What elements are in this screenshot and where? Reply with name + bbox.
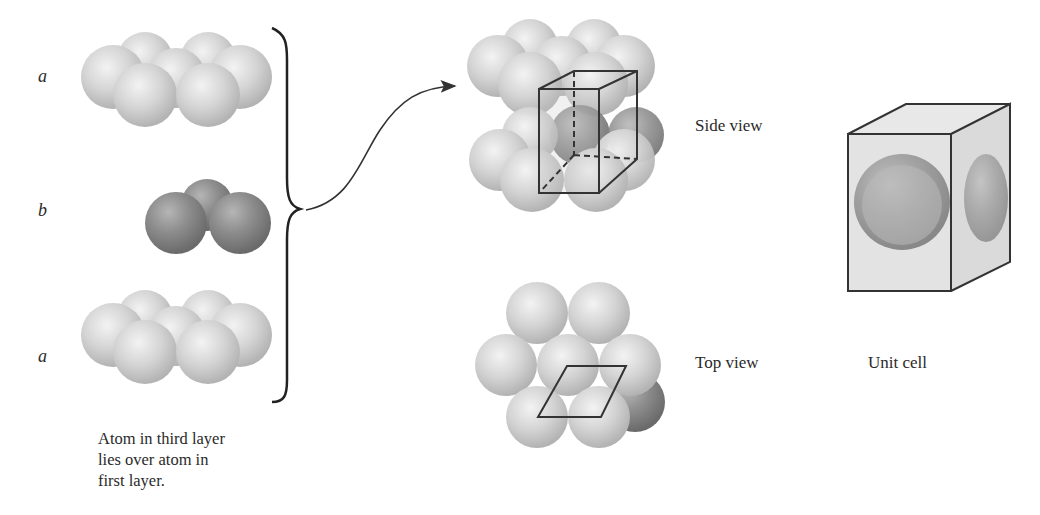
caption-line: Atom in third layer [98, 428, 225, 449]
caption-line: first layer. [98, 470, 225, 491]
layer-label-a-bottom: a [38, 346, 47, 367]
layer-b-atoms [145, 179, 271, 254]
caption-line: lies over atom in [98, 449, 225, 470]
arrow-to-views [306, 86, 455, 210]
unit-cell-drawing [848, 104, 1010, 291]
grouping-brace [272, 28, 300, 402]
layer-caption: Atom in third layer lies over atom in fi… [98, 428, 225, 491]
side-view-label: Side view [695, 116, 763, 136]
layer-a-top-atoms [81, 32, 272, 127]
layer-a-bottom-atoms [81, 290, 272, 384]
hcp-diagram: a b a Atom in third layer lies over atom… [0, 0, 1040, 515]
top-view-label: Top view [695, 353, 759, 373]
unit-cell-label: Unit cell [868, 353, 927, 373]
layer-label-b: b [38, 200, 47, 221]
layer-label-a-top: a [38, 66, 47, 87]
